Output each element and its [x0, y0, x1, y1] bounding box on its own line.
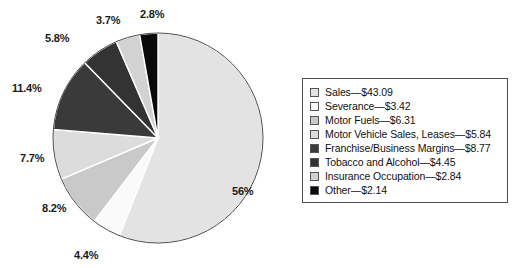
legend-swatch-icon [310, 158, 319, 167]
legend-item-label: Other—$2.14 [325, 183, 387, 197]
legend-item[interactable]: Sales—$43.09 [310, 85, 501, 99]
pie-label-sales: 56% [232, 185, 253, 197]
pie-chart-graphic [52, 32, 264, 244]
legend-swatch-icon [310, 116, 319, 125]
pie-label-severance: 4.4% [74, 249, 98, 261]
legend-item[interactable]: Tobacco and Alcohol—$4.45 [310, 155, 501, 169]
legend-item-label: Motor Vehicle Sales, Leases—$5.84 [325, 127, 491, 141]
pie-label-insurance: 3.7% [96, 14, 120, 26]
legend-swatch-icon [310, 88, 319, 97]
legend-item[interactable]: Insurance Occupation—$2.84 [310, 169, 501, 183]
pie-label-other: 2.8% [140, 8, 164, 20]
legend-item[interactable]: Motor Vehicle Sales, Leases—$5.84 [310, 127, 501, 141]
pie-chart-figure: 56% 4.4% 8.2% 7.7% 11.4% 5.8% 3.7% 2.8% … [0, 0, 524, 268]
pie-label-motor-fuels: 8.2% [42, 202, 66, 214]
legend-item-label: Severance—$3.42 [325, 99, 410, 113]
pie-svg [52, 32, 264, 244]
chart-legend: Sales—$43.09Severance—$3.42Motor Fuels—$… [302, 78, 508, 203]
pie-slices [53, 33, 263, 243]
legend-item[interactable]: Severance—$3.42 [310, 99, 501, 113]
legend-item-label: Insurance Occupation—$2.84 [325, 169, 461, 183]
legend-swatch-icon [310, 102, 319, 111]
legend-item[interactable]: Motor Fuels—$6.31 [310, 113, 501, 127]
pie-label-tobacco: 5.8% [45, 32, 69, 44]
legend-swatch-icon [310, 186, 319, 195]
legend-swatch-icon [310, 130, 319, 139]
pie-label-franchise: 11.4% [12, 82, 42, 94]
legend-item-label: Franchise/Business Margins—$8.77 [325, 141, 490, 155]
legend-item-label: Tobacco and Alcohol—$4.45 [325, 155, 456, 169]
legend-swatch-icon [310, 144, 319, 153]
legend-item[interactable]: Other—$2.14 [310, 183, 501, 197]
legend-item-label: Motor Fuels—$6.31 [325, 113, 416, 127]
legend-swatch-icon [310, 172, 319, 181]
pie-label-motor-vehicle: 7.7% [20, 152, 44, 164]
legend-item-label: Sales—$43.09 [325, 85, 393, 99]
legend-item[interactable]: Franchise/Business Margins—$8.77 [310, 141, 501, 155]
